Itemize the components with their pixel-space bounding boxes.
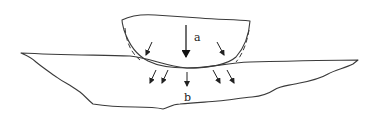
dashed-outlines xyxy=(125,28,249,62)
label-b: b xyxy=(184,91,191,104)
arrow-a: a xyxy=(186,25,201,57)
label-a: a xyxy=(194,31,201,44)
arrows-b: b xyxy=(150,70,234,104)
side-arrows xyxy=(146,42,224,55)
indentation-diagram: a b xyxy=(0,0,377,118)
